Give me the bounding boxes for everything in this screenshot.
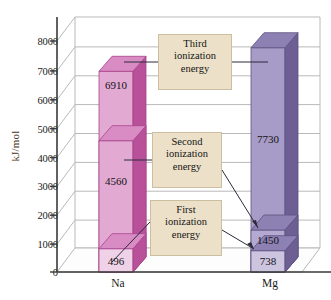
callout-second-line1: Second — [157, 136, 217, 148]
callout-third-line3: energy — [163, 63, 227, 75]
callout-second-line3: energy — [157, 161, 217, 173]
callout-second-ionization-energy: Second ionization energy — [152, 132, 222, 188]
callout-first-line1: First — [155, 204, 217, 216]
callout-third-line2: ionization — [163, 50, 227, 62]
callout-second-line2: ionization — [157, 148, 217, 160]
leader-arrowheads — [247, 220, 258, 249]
callout-third-ionization-energy: Third ionization energy — [158, 34, 232, 90]
ionization-energy-chart: 0 1000 2000 3000 4000 5000 6000 7000 800… — [0, 0, 331, 300]
callout-first-ionization-energy: First ionization energy — [150, 200, 222, 256]
callout-third-line1: Third — [163, 38, 227, 50]
leader-second-mg — [222, 170, 258, 228]
leader-first-na — [112, 222, 150, 262]
callout-first-line3: energy — [155, 229, 217, 241]
callout-first-line2: ionization — [155, 216, 217, 228]
leader-first-mg — [222, 230, 254, 249]
